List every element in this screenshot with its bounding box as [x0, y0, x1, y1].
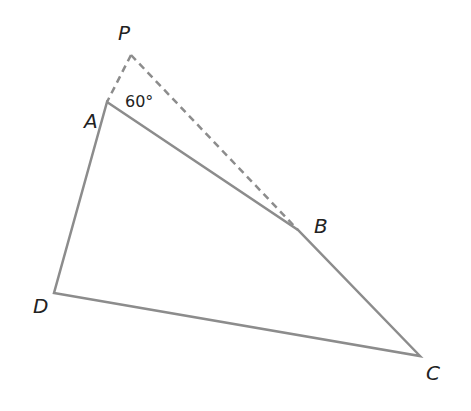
edge-pb — [131, 55, 298, 230]
angle-label-p: 60° — [125, 92, 153, 111]
label-b: B — [314, 214, 328, 238]
label-c: C — [426, 361, 440, 385]
quadrilateral-abcd — [54, 102, 420, 356]
quadrilateral-diagram: P A B D C 60° — [0, 0, 471, 411]
label-a: A — [82, 109, 98, 133]
label-p: P — [118, 21, 131, 45]
label-d: D — [33, 294, 48, 318]
